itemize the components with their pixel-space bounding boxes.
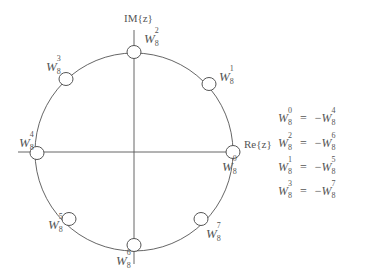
node-w7 [194, 213, 208, 226]
identity-row: W18=−W58 [278, 160, 332, 175]
node-w5 [62, 213, 76, 226]
label-w6: W68 [116, 254, 127, 267]
real-axis-label: Re{z} [244, 138, 272, 150]
label-w7: W78 [206, 227, 217, 240]
imaginary-axis-label: IM{z} [124, 12, 153, 24]
label-w2: W28 [144, 32, 155, 45]
identity-row: W08=−W48 [278, 111, 332, 126]
label-w3: W38 [46, 60, 57, 73]
identity-row: W38=−W78 [278, 184, 332, 199]
label-w1: W18 [219, 70, 230, 83]
label-w5: W58 [48, 218, 59, 231]
node-w3 [59, 73, 73, 86]
label-w4: W48 [19, 136, 30, 149]
node-w1 [202, 78, 216, 91]
label-w0: W08 [222, 160, 233, 173]
identity-row: W28=−W68 [278, 136, 332, 151]
node-w2 [127, 46, 141, 59]
